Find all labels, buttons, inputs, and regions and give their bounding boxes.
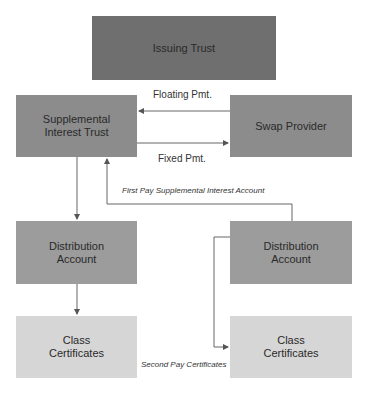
distribution-right-line1: Distribution bbox=[263, 240, 318, 253]
issuing-trust-label: Issuing Trust bbox=[153, 42, 215, 55]
sit-label-line2: Interest Trust bbox=[43, 126, 110, 139]
certificates-left-line1: Class bbox=[49, 334, 104, 347]
distribution-left-line2: Account bbox=[49, 253, 104, 266]
distribution-account-right-node: Distribution Account bbox=[230, 221, 352, 284]
floating-pmt-label: Floating Pmt. bbox=[153, 89, 212, 100]
certificates-right-line1: Class bbox=[263, 334, 318, 347]
distribution-account-left-node: Distribution Account bbox=[16, 221, 137, 284]
issuing-trust-node: Issuing Trust bbox=[92, 16, 276, 80]
class-certificates-right-node: Class Certificates bbox=[230, 316, 352, 378]
sit-label-line1: Supplemental bbox=[43, 113, 110, 126]
certificates-left-line2: Certificates bbox=[49, 347, 104, 360]
swap-provider-node: Swap Provider bbox=[230, 95, 352, 157]
second-pay-arrow bbox=[214, 237, 230, 347]
class-certificates-left-node: Class Certificates bbox=[16, 316, 137, 378]
supplemental-interest-trust-node: Supplemental Interest Trust bbox=[16, 95, 137, 157]
first-pay-label: First Pay Supplemental Interest Account bbox=[122, 186, 264, 195]
swap-provider-label: Swap Provider bbox=[255, 120, 327, 133]
certificates-right-line2: Certificates bbox=[263, 347, 318, 360]
second-pay-label: Second Pay Certificates bbox=[141, 360, 226, 369]
fixed-pmt-label: Fixed Pmt. bbox=[158, 153, 206, 164]
distribution-right-line2: Account bbox=[263, 253, 318, 266]
distribution-left-line1: Distribution bbox=[49, 240, 104, 253]
